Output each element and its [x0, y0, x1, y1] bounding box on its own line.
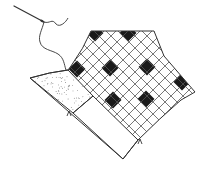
checkered-fabric-patch — [0, 0, 209, 169]
dark-square — [139, 59, 156, 76]
dark-square — [120, 25, 137, 42]
dark-square — [69, 61, 86, 78]
stippled-fabric-patch — [30, 66, 94, 117]
stipple-patch-outline — [30, 70, 93, 113]
dark-square — [87, 25, 104, 42]
needle-icon — [14, 6, 44, 22]
dark-square — [102, 60, 119, 77]
stitch-mark-icon — [67, 111, 71, 116]
thread-icon — [39, 18, 68, 70]
plain-fabric-patch — [73, 96, 138, 159]
dark-square — [174, 74, 191, 91]
dark-square — [138, 91, 155, 108]
quilt-stitching-illustration — [0, 0, 209, 169]
